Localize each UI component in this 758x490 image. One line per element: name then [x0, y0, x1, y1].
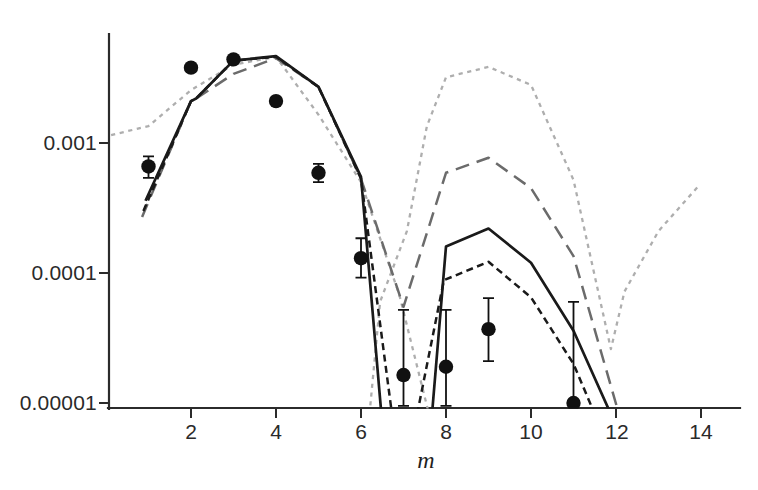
x-tick-label-10: 10: [519, 421, 542, 443]
light-gray-dotted-fit: [111, 57, 429, 414]
y-tick-label-1e-5: 0.00001: [10, 392, 97, 414]
data-point: [481, 322, 495, 336]
black-short-dashed-fit-group: [143, 57, 594, 414]
data-point: [141, 159, 155, 173]
axes: [100, 34, 740, 417]
gray-long-dashed-fit: [142, 58, 619, 414]
figure: 0.001 0.0001 0.00001 2 4 6 8 10 12 14 m: [0, 0, 758, 490]
data-point: [396, 368, 410, 382]
chart-canvas: [0, 0, 758, 490]
x-tick-label-6: 6: [355, 421, 367, 443]
data-point: [226, 52, 240, 66]
data-point: [269, 94, 283, 108]
solid-black-fit-group: [146, 56, 611, 414]
error-bar: [568, 302, 579, 408]
black-short-dashed-fit: [417, 262, 595, 414]
error-bars: [143, 156, 579, 407]
data-point: [184, 60, 198, 74]
black-short-dashed-fit: [143, 57, 392, 414]
light-gray-dotted-fit: [370, 67, 699, 414]
light-gray-dotted-fit-group: [111, 57, 699, 414]
x-tick-label-8: 8: [440, 421, 452, 443]
x-tick-label-12: 12: [605, 421, 628, 443]
y-tick-label-1e-3: 0.001: [10, 132, 97, 154]
solid-black-fit: [432, 229, 611, 415]
x-axis-title: m: [417, 447, 434, 474]
data-point: [566, 396, 580, 410]
data-point: [439, 360, 453, 374]
x-tick-label-14: 14: [689, 421, 712, 443]
data-point: [311, 166, 325, 180]
error-bar: [441, 310, 452, 406]
data-point: [354, 251, 368, 265]
solid-black-fit: [146, 56, 382, 414]
x-tick-label-2: 2: [185, 421, 197, 443]
y-tick-label-1e-4: 0.0001: [10, 262, 97, 284]
data-points: [141, 52, 580, 410]
gray-long-dashed-fit-group: [142, 58, 619, 414]
x-tick-label-4: 4: [270, 421, 282, 443]
